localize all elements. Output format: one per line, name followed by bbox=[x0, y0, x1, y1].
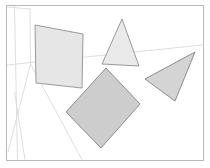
left-quadrilateral: Light gray tilted square panel, upper le… bbox=[35, 25, 83, 88]
back-corner-vertical-edge bbox=[30, 9, 31, 64]
scene-canvas: Light gray tilted square panel, upper le… bbox=[0, 0, 210, 168]
perspective-scene-svg: Light gray tilted square panel, upper le… bbox=[0, 0, 210, 168]
